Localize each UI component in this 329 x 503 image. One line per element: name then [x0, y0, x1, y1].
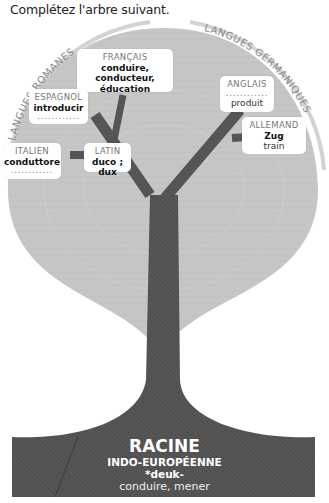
- node-lang-label: LATIN: [84, 146, 131, 157]
- node-anglais: ANGLAIS ............ produit: [220, 76, 274, 112]
- node-latin: LATIN duco ; dux: [84, 143, 131, 172]
- node-word: éducation: [77, 84, 173, 95]
- node-francais: FRANÇAIS conduire, conducteur, éducation: [77, 49, 173, 92]
- root-title: RACINE: [0, 437, 329, 456]
- root-meaning: conduire, mener: [0, 480, 329, 493]
- node-lang-label: ALLEMAND: [242, 120, 306, 131]
- node-espagnol: ESPAGNOL introducir ............: [29, 89, 88, 124]
- node-allemand: ALLEMAND Zug train: [242, 117, 306, 154]
- node-word: Zug: [242, 131, 306, 142]
- blank-field[interactable]: ............: [220, 90, 274, 98]
- node-lang-label: ANGLAIS: [220, 79, 274, 90]
- node-translation: train: [242, 141, 306, 152]
- node-word: produit: [220, 98, 274, 109]
- root-stem: *deuk-: [0, 468, 329, 480]
- blank-field[interactable]: ............: [3, 167, 61, 175]
- root-subtitle: INDO-EUROPÉENNE: [0, 456, 329, 468]
- root-label: RACINE INDO-EUROPÉENNE *deuk- conduire, …: [0, 437, 329, 493]
- blank-field[interactable]: ............: [29, 113, 88, 121]
- node-word: conduire, conducteur,: [77, 63, 173, 84]
- node-word: duco ; dux: [84, 157, 131, 178]
- node-lang-label: ESPAGNOL: [29, 92, 88, 103]
- node-lang-label: ITALIEN: [3, 146, 61, 157]
- node-lang-label: FRANÇAIS: [77, 52, 173, 63]
- node-italien: ITALIEN conduttore ............: [3, 143, 61, 179]
